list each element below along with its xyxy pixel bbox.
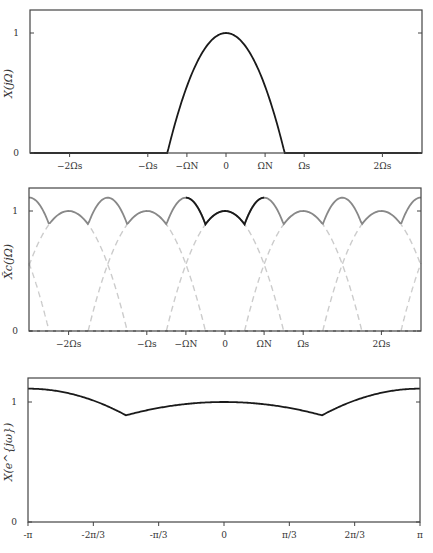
x-tick-label: −2Ωs	[56, 339, 82, 349]
replica-curve-dashed	[166, 211, 283, 331]
x-tick-label: 0	[223, 161, 229, 171]
y-tick-label: 1	[13, 28, 19, 38]
axes-frame	[28, 378, 420, 522]
y-axis-label: X(jΩ)	[2, 69, 15, 99]
x-tick-label: -2π/3	[82, 530, 106, 540]
x-tick-label: −ΩN	[175, 161, 198, 171]
replica-curve-dashed	[88, 211, 205, 331]
x-tick-label: 0	[221, 530, 227, 540]
y-axis-label: X(e^{jω})	[2, 423, 15, 483]
x-tick-label: -π	[24, 530, 33, 540]
axes-frame	[29, 188, 421, 331]
chart-panel-3: -π-2π/3-π/30π/32π/3π01X(e^{jω})	[2, 378, 423, 540]
replica-curve-dashed	[401, 263, 421, 331]
x-tick-label: −2Ωs	[57, 161, 83, 171]
x-tick-label: π/3	[282, 530, 297, 540]
x-tick-label: −Ωs	[137, 339, 157, 349]
x-tick-label: ΩN	[257, 161, 272, 171]
y-axis-label: X̃c(jΩ)	[2, 244, 15, 280]
spectrum-curve	[30, 33, 422, 153]
figure: −2Ωs−Ωs−ΩN0ΩNΩs2Ωs01X(jΩ)−2Ωs−Ωs−ΩN0ΩNΩs…	[0, 0, 433, 553]
x-tick-label: 0	[222, 339, 228, 349]
y-tick-label: 0	[12, 326, 18, 336]
x-tick-label: Ωs	[298, 161, 310, 171]
y-tick-label: 0	[13, 148, 19, 158]
chart-panel-1: −2Ωs−Ωs−ΩN0ΩNΩs2Ωs01X(jΩ)	[2, 10, 422, 171]
x-tick-label: −Ωs	[138, 161, 158, 171]
replica-curve-dashed	[29, 211, 127, 331]
replica-curve-dashed	[323, 211, 421, 331]
x-tick-label: −ΩN	[174, 339, 197, 349]
y-tick-label: 1	[11, 397, 17, 407]
y-tick-label: 0	[11, 517, 17, 527]
y-tick-label: 1	[12, 206, 18, 216]
dtft-curve	[28, 389, 420, 416]
x-tick-label: Ωs	[297, 339, 309, 349]
x-tick-label: 2Ωs	[373, 161, 391, 171]
x-tick-label: 2Ωs	[372, 339, 390, 349]
replica-curve-dashed	[29, 263, 49, 331]
chart-panel-2: −2Ωs−Ωs−ΩN0ΩNΩs2Ωs01X̃c(jΩ)	[2, 188, 421, 349]
x-tick-label: ΩN	[256, 339, 271, 349]
x-tick-label: 2π/3	[344, 530, 365, 540]
x-tick-label: π	[417, 530, 423, 540]
x-tick-label: -π/3	[150, 530, 168, 540]
replica-curve-dashed	[245, 211, 362, 331]
axes-frame	[30, 10, 422, 153]
baseband-curve	[186, 198, 264, 225]
